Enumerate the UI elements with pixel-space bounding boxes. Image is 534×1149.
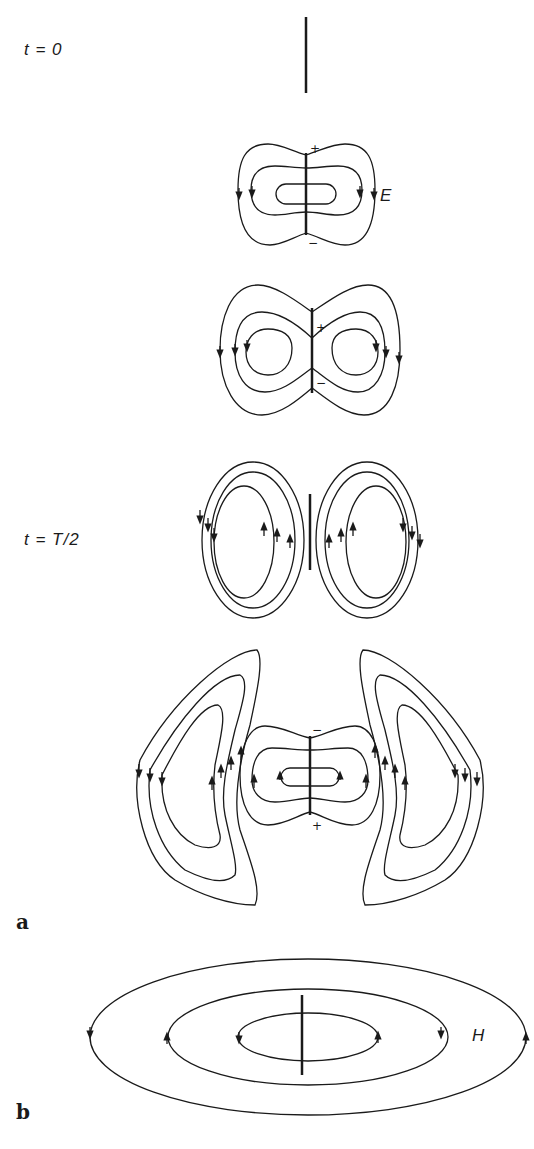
time-label-t0: t = 0: [24, 40, 63, 60]
frame-5-field-lines: [137, 650, 483, 905]
charge-plus: +: [316, 321, 326, 335]
charge-minus: −: [312, 723, 322, 737]
charge-minus: −: [316, 376, 326, 390]
panel-b-magnetic-field: [90, 959, 526, 1115]
frame-4-closed-loops: [200, 462, 420, 618]
field-label-e: E: [380, 186, 392, 206]
field-label-h: H: [472, 1026, 485, 1046]
frame-3-field-lines: [220, 285, 400, 415]
charge-plus: +: [312, 819, 322, 833]
time-label-t-half: t = T/2: [24, 530, 80, 550]
frame-2-field-lines: [238, 144, 375, 245]
panel-label-a: a: [16, 910, 29, 934]
dipole-radiation-diagram: + − + − − +: [0, 0, 534, 1149]
panel-label-b: b: [16, 1100, 30, 1124]
charge-minus: −: [308, 236, 318, 250]
charge-plus: +: [310, 142, 320, 156]
